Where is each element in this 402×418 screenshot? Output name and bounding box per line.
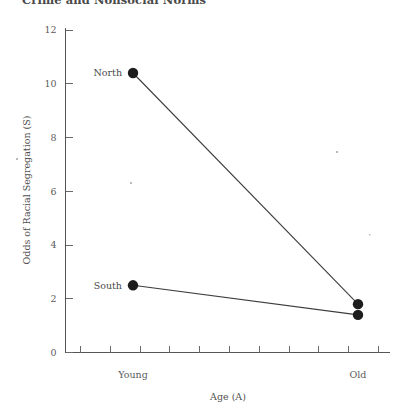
y-tick-label: 8 [50, 132, 56, 143]
series-label-north: North [93, 67, 122, 78]
chart-canvas: 024681012 Odds of Racial Segregation (S)… [0, 0, 402, 418]
data-point-north-young [128, 68, 138, 78]
x-axis-title: Age (A) [209, 391, 246, 402]
series-layer [128, 68, 363, 320]
scan-speck [130, 182, 132, 184]
x-axis-ticks [81, 346, 379, 353]
x-category-label-young: Young [117, 369, 147, 380]
series-labels: NorthSouth [93, 67, 122, 290]
data-point-south-old [353, 310, 363, 320]
y-tick-label: 10 [44, 78, 56, 89]
y-tick-label: 2 [50, 293, 56, 304]
y-tick-label: 12 [44, 24, 56, 35]
scan-artifacts [16, 151, 371, 236]
y-axis-ticks: 024681012 [44, 24, 72, 358]
scan-speck [16, 158, 18, 160]
series-line-north [133, 73, 358, 304]
interaction-plot-figure: 024681012 Odds of Racial Segregation (S)… [0, 0, 402, 418]
series-label-south: South [94, 280, 122, 291]
series-line-south [133, 285, 358, 315]
data-point-south-young [128, 280, 138, 290]
scan-speck [369, 234, 371, 236]
y-tick-label: 0 [50, 347, 56, 358]
y-axis-title: Odds of Racial Segregation (S) [21, 116, 32, 265]
x-category-label-old: Old [350, 369, 367, 380]
scan-speck [336, 151, 338, 153]
data-point-north-old [353, 299, 363, 309]
y-tick-label: 4 [50, 239, 56, 250]
y-tick-label: 6 [50, 186, 56, 197]
